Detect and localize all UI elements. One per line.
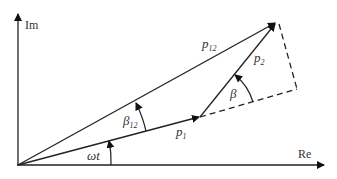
vector-p2-label: p2 <box>253 50 265 67</box>
imaginary-axis-label: Im <box>25 18 39 32</box>
dashed-extension-line <box>200 89 297 117</box>
phasor-diagram: Im Re p1 p12 p2 ωt β12 β <box>0 0 337 179</box>
vector-p12-label: p12 <box>201 36 217 53</box>
angle-arc-beta12 <box>136 103 146 131</box>
vector-p1 <box>18 117 199 165</box>
vector-p1-label: p1 <box>175 124 187 141</box>
angle-label-beta: β <box>229 86 237 101</box>
angle-label-beta12: β12 <box>122 113 137 130</box>
vector-p2 <box>200 24 275 117</box>
real-axis-label: Re <box>298 147 311 161</box>
angle-arc-omega-t <box>109 141 111 165</box>
dashed-projection-line <box>279 24 297 89</box>
angle-label-omega-t: ωt <box>87 148 100 163</box>
angle-arc-beta <box>235 75 253 102</box>
